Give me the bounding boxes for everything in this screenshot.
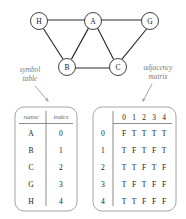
graph-node-H[interactable]: H <box>31 13 48 30</box>
graph-node-H-label: H <box>36 17 42 26</box>
adjacency-matrix-cell: F <box>142 163 146 172</box>
graph-node-C-label: C <box>115 63 120 72</box>
adjacency-matrix-cell: T <box>142 146 147 155</box>
symbol-table-cell-index: 1 <box>59 146 63 155</box>
adjacency-matrix-annot-line1: adjacency <box>143 64 173 72</box>
adjacency-matrix-col-header: 4 <box>162 113 166 122</box>
adjacency-matrix-col-header: 1 <box>132 113 136 122</box>
adjacency-matrix-cell: T <box>152 129 157 138</box>
adjacency-matrix-cell: F <box>122 129 126 138</box>
graph-node-C[interactable]: C <box>110 59 127 76</box>
adjacency-matrix-row-header: 2 <box>101 163 105 172</box>
adjacency-matrix-col-header: 3 <box>152 113 156 122</box>
adjacency-matrix-annot-line2: matrix <box>149 73 169 81</box>
adjacency-matrix-arrow-icon <box>143 84 152 101</box>
adjacency-matrix-cell: T <box>122 180 127 189</box>
symbol-table-cell-index: 3 <box>59 180 63 189</box>
symbol-table-cell-index: 2 <box>59 163 63 172</box>
adjacency-matrix-cell: F <box>142 197 146 206</box>
adjacency-matrix-cell: T <box>162 129 167 138</box>
symbol-table-cell-index: 4 <box>59 197 63 206</box>
symbol-table-arrow-icon <box>35 86 48 101</box>
adjacency-matrix-col-header: 0 <box>122 113 126 122</box>
edge-A-C <box>98 29 114 59</box>
adjacency-matrix-cell: F <box>162 163 166 172</box>
adjacency-matrix-cell: F <box>162 197 166 206</box>
adjacency-matrix-cell: T <box>132 163 137 172</box>
edge-G-C <box>122 29 146 59</box>
symbol-table-cell-name: A <box>28 129 34 138</box>
edge-H-B <box>44 29 63 59</box>
adjacency-matrix: 0 1 2 3 4 0 F T T T T 1 T F T F T <box>93 107 176 211</box>
adjacency-matrix-cell: F <box>132 180 136 189</box>
symbol-table: name index A 0 B 1 C 2 G 3 H 4 <box>15 107 77 211</box>
graph-node-A-label: A <box>90 17 96 26</box>
adjacency-matrix-cell: F <box>162 180 166 189</box>
adjacency-matrix-cell: T <box>162 146 167 155</box>
symbol-table-cell-name: H <box>28 197 34 206</box>
symbol-table-annot-line2: table <box>23 75 38 83</box>
adjacency-matrix-cell: T <box>122 146 127 155</box>
figure-root: H A G B C symbol table <box>0 0 186 219</box>
adjacency-matrix-cell: T <box>132 197 137 206</box>
symbol-table-annot-line1: symbol <box>20 66 40 74</box>
adjacency-matrix-cell: T <box>142 129 147 138</box>
adjacency-matrix-row-header: 0 <box>101 129 105 138</box>
symbol-table-cell-name: C <box>28 163 33 172</box>
adjacency-matrix-cell: T <box>132 129 137 138</box>
annotation-adjacency-matrix: adjacency matrix <box>143 64 173 101</box>
adjacency-matrix-cell: F <box>152 197 156 206</box>
adjacency-matrix-row-header: 3 <box>101 180 105 189</box>
adjacency-matrix-row-header: 1 <box>101 146 105 155</box>
edge-A-B <box>72 29 89 59</box>
symbol-table-header-index: index <box>53 113 69 121</box>
adjacency-matrix-row-header: 4 <box>101 197 105 206</box>
adjacency-matrix-cell: T <box>122 163 127 172</box>
annotation-symbol-table: symbol table <box>20 66 48 101</box>
adjacency-matrix-cell: F <box>152 180 156 189</box>
graph-node-G[interactable]: G <box>142 13 159 30</box>
graph-node-G-label: G <box>147 17 153 26</box>
figure-canvas: H A G B C symbol table <box>0 0 186 219</box>
symbol-table-cell-name: G <box>28 180 34 189</box>
graph-node-B[interactable]: B <box>59 59 76 76</box>
adjacency-matrix-cell: T <box>152 163 157 172</box>
adjacency-matrix-cell: T <box>122 197 127 206</box>
adjacency-matrix-box <box>93 107 176 211</box>
symbol-table-cell-index: 0 <box>59 129 63 138</box>
graph-nodes: H A G B C <box>31 13 159 76</box>
adjacency-matrix-cell: F <box>152 146 156 155</box>
symbol-table-cell-name: B <box>28 146 33 155</box>
symbol-table-header-name: name <box>23 113 38 121</box>
graph-node-B-label: B <box>64 63 69 72</box>
adjacency-matrix-cell: T <box>142 180 147 189</box>
graph-node-A[interactable]: A <box>85 13 102 30</box>
adjacency-matrix-cell: F <box>132 146 136 155</box>
adjacency-matrix-col-header: 2 <box>142 113 146 122</box>
